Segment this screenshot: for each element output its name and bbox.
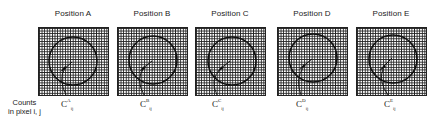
pixel-count-label: CAij	[61, 99, 73, 111]
panel-position-b: Position B CBij	[112, 0, 192, 121]
detector-circle-diagram	[38, 27, 109, 96]
detector-circle-diagram	[195, 27, 266, 96]
panel-title: Position D	[272, 9, 352, 18]
panel-position-a: Position A CAij	[33, 0, 113, 121]
pixel-count-label: CEij	[384, 99, 396, 111]
panel-title: Position E	[351, 9, 431, 18]
panel-position-d: Position D CDij	[272, 0, 352, 121]
pixel-count-label: CCij	[212, 99, 224, 111]
panel-title: Position B	[112, 9, 192, 18]
detector-circle-diagram	[356, 27, 427, 96]
detector-circle-diagram	[277, 27, 348, 96]
detector-circle-diagram	[117, 27, 188, 96]
panel-position-e: Position E CEij	[351, 0, 431, 121]
pixel-count-label: CBij	[140, 99, 152, 111]
panel-position-c: Position C CCij	[190, 0, 270, 121]
pixel-count-label: CDij	[296, 99, 308, 111]
panel-title: Position C	[190, 9, 270, 18]
panel-title: Position A	[33, 9, 113, 18]
